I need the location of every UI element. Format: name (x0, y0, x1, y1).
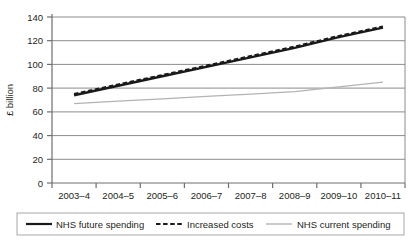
y-tick-label-60: 60 (32, 106, 43, 117)
x-tick-label-2005-6: 2005–6 (146, 190, 178, 201)
legend-label-increased-costs: Increased costs (187, 219, 254, 230)
x-tick-label-2004-5: 2004–5 (102, 190, 134, 201)
chart-background (0, 0, 420, 243)
chart-canvas: 140 120 100 80 60 40 20 0 £ billion 2003… (0, 0, 420, 243)
line-chart-figure: 140 120 100 80 60 40 20 0 £ billion 2003… (0, 0, 420, 243)
y-tick-label-140: 140 (27, 12, 43, 23)
y-tick-label-0: 0 (38, 178, 43, 189)
y-tick-label-120: 120 (27, 35, 43, 46)
y-tick-label-20: 20 (32, 154, 43, 165)
y-tick-label-100: 100 (27, 59, 43, 70)
y-tick-label-80: 80 (32, 83, 43, 94)
x-tick-label-2009-10: 2009–10 (320, 190, 357, 201)
x-tick-label-2010-11: 2010–11 (365, 190, 401, 201)
x-tick-label-2008-9: 2008–9 (279, 190, 311, 201)
y-tick-label-40: 40 (32, 130, 43, 141)
x-tick-label-2007-8: 2007–8 (235, 190, 267, 201)
legend-label-nhs-future-spending: NHS future spending (56, 219, 144, 230)
x-tick-label-2003-4: 2003–4 (58, 190, 90, 201)
legend-label-nhs-current-spending: NHS current spending (297, 219, 390, 230)
y-axis-title: £ billion (4, 84, 15, 116)
x-tick-label-2006-7: 2006–7 (191, 190, 223, 201)
chart-legend: NHS future spending Increased costs NHS … (17, 213, 404, 235)
